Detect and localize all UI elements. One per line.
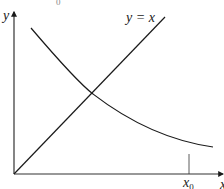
- cropped-text-fragment: 0: [56, 0, 61, 7]
- identity-line-label: y = x: [126, 11, 155, 25]
- diagram-canvas: [0, 0, 224, 189]
- decreasing-curve: [31, 28, 213, 147]
- x0-label-subscript: 0: [189, 182, 194, 189]
- y-axis-label: y: [3, 9, 9, 23]
- x-axis-label: x: [220, 178, 224, 189]
- identity-line: [14, 17, 165, 174]
- x0-label: x0: [183, 176, 194, 189]
